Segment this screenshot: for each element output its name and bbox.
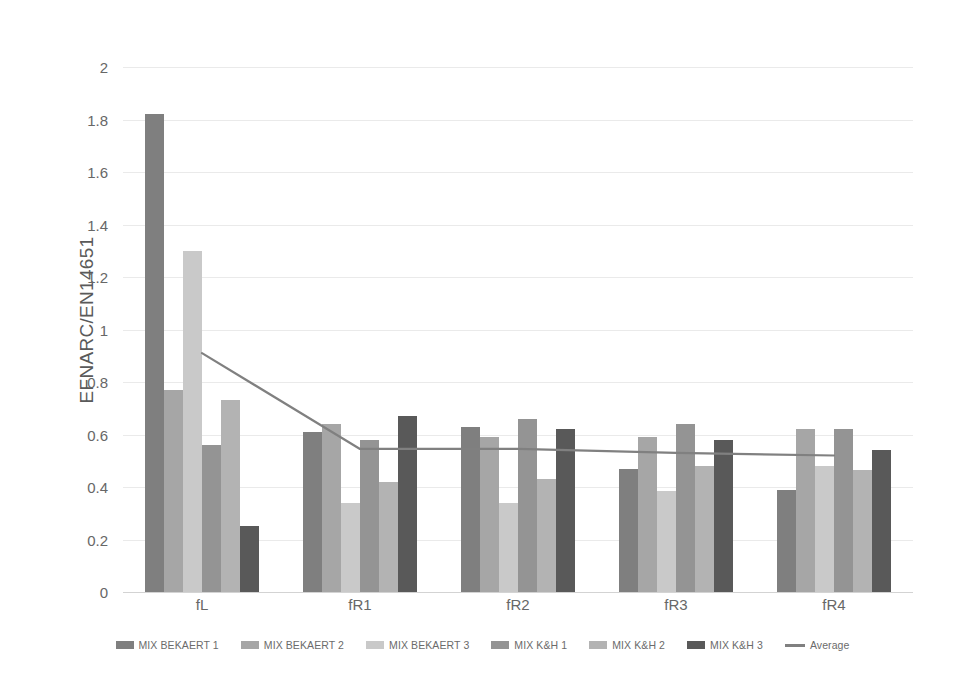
bar-group — [755, 67, 913, 592]
bar[interactable] — [379, 482, 398, 592]
bar[interactable] — [461, 427, 480, 592]
bar-set — [123, 67, 281, 592]
legend-label: MIX BEKAERT 2 — [264, 639, 344, 651]
bar[interactable] — [714, 440, 733, 592]
bar[interactable] — [638, 437, 657, 592]
legend-item[interactable]: MIX BEKAERT 2 — [241, 639, 344, 651]
bar[interactable] — [619, 469, 638, 592]
bar-set — [281, 67, 439, 592]
gridline — [123, 592, 913, 593]
bar[interactable] — [240, 526, 259, 592]
bar[interactable] — [834, 429, 853, 592]
legend-item[interactable]: MIX BEKAERT 1 — [116, 639, 219, 651]
legend-color-swatch-icon — [116, 641, 134, 649]
legend-color-swatch-icon — [687, 641, 705, 649]
bar[interactable] — [145, 114, 164, 592]
y-axis-tick-label: 1.4 — [87, 216, 108, 233]
x-axis-tick-label: fR3 — [597, 596, 755, 622]
bar-group — [123, 67, 281, 592]
bar[interactable] — [518, 419, 537, 592]
bar[interactable] — [796, 429, 815, 592]
x-axis-tick-label: fR2 — [439, 596, 597, 622]
bar[interactable] — [480, 437, 499, 592]
legend-line-swatch-icon — [785, 644, 805, 647]
chart-legend: MIX BEKAERT 1MIX BEKAERT 2MIX BEKAERT 3M… — [0, 634, 965, 656]
bar[interactable] — [499, 503, 518, 592]
y-axis-tick-label: 0 — [100, 584, 108, 601]
legend-item[interactable]: MIX BEKAERT 3 — [366, 639, 469, 651]
legend-label: MIX BEKAERT 1 — [139, 639, 219, 651]
bar[interactable] — [202, 445, 221, 592]
bar-groups — [123, 67, 913, 592]
bar-set — [755, 67, 913, 592]
legend-color-swatch-icon — [241, 641, 259, 649]
bar[interactable] — [341, 503, 360, 592]
plot-area — [123, 67, 913, 592]
y-axis-tick-label: 0.4 — [87, 479, 108, 496]
legend-color-swatch-icon — [366, 641, 384, 649]
bar-group — [597, 67, 755, 592]
bar-group — [439, 67, 597, 592]
bar[interactable] — [815, 466, 834, 592]
legend-item[interactable]: MIX K&H 2 — [589, 639, 665, 651]
bar[interactable] — [777, 490, 796, 592]
legend-label: MIX K&H 2 — [612, 639, 665, 651]
x-axis-tick-label: fL — [123, 596, 281, 622]
legend-label: Average — [810, 639, 850, 651]
x-axis-tick-labels: fLfR1fR2fR3fR4 — [123, 596, 913, 622]
bar[interactable] — [164, 390, 183, 592]
y-axis-tick-label: 0.2 — [87, 531, 108, 548]
bar[interactable] — [556, 429, 575, 592]
bar-group — [281, 67, 439, 592]
y-axis-tick-label: 1.2 — [87, 269, 108, 286]
x-axis-tick-label: fR4 — [755, 596, 913, 622]
legend-item[interactable]: MIX K&H 1 — [491, 639, 567, 651]
bar[interactable] — [676, 424, 695, 592]
bar[interactable] — [322, 424, 341, 592]
legend-label: MIX BEKAERT 3 — [389, 639, 469, 651]
bar[interactable] — [183, 251, 202, 592]
chart-container: EFNARC/EN14651 00.20.40.60.811.21.41.61.… — [0, 0, 965, 688]
bar[interactable] — [303, 432, 322, 592]
legend-item[interactable]: MIX K&H 3 — [687, 639, 763, 651]
y-axis-tick-label: 1 — [100, 321, 108, 338]
bar[interactable] — [695, 466, 714, 592]
y-axis-tick-label: 0.6 — [87, 426, 108, 443]
legend-color-swatch-icon — [589, 641, 607, 649]
bar[interactable] — [657, 491, 676, 592]
legend-color-swatch-icon — [491, 641, 509, 649]
y-axis-tick-label: 0.8 — [87, 374, 108, 391]
y-axis-tick-labels: 00.20.40.60.811.21.41.61.82 — [70, 67, 116, 592]
legend-label: MIX K&H 3 — [710, 639, 763, 651]
y-axis-tick-label: 1.6 — [87, 164, 108, 181]
bar[interactable] — [872, 450, 891, 592]
x-axis-tick-label: fR1 — [281, 596, 439, 622]
bar[interactable] — [360, 440, 379, 592]
legend-label: MIX K&H 1 — [514, 639, 567, 651]
y-axis-tick-label: 2 — [100, 59, 108, 76]
bar-set — [597, 67, 755, 592]
legend-item[interactable]: Average — [785, 639, 850, 651]
bar[interactable] — [221, 400, 240, 592]
bar[interactable] — [853, 470, 872, 592]
y-axis-tick-label: 1.8 — [87, 111, 108, 128]
bar[interactable] — [398, 416, 417, 592]
bar-set — [439, 67, 597, 592]
bar[interactable] — [537, 479, 556, 592]
